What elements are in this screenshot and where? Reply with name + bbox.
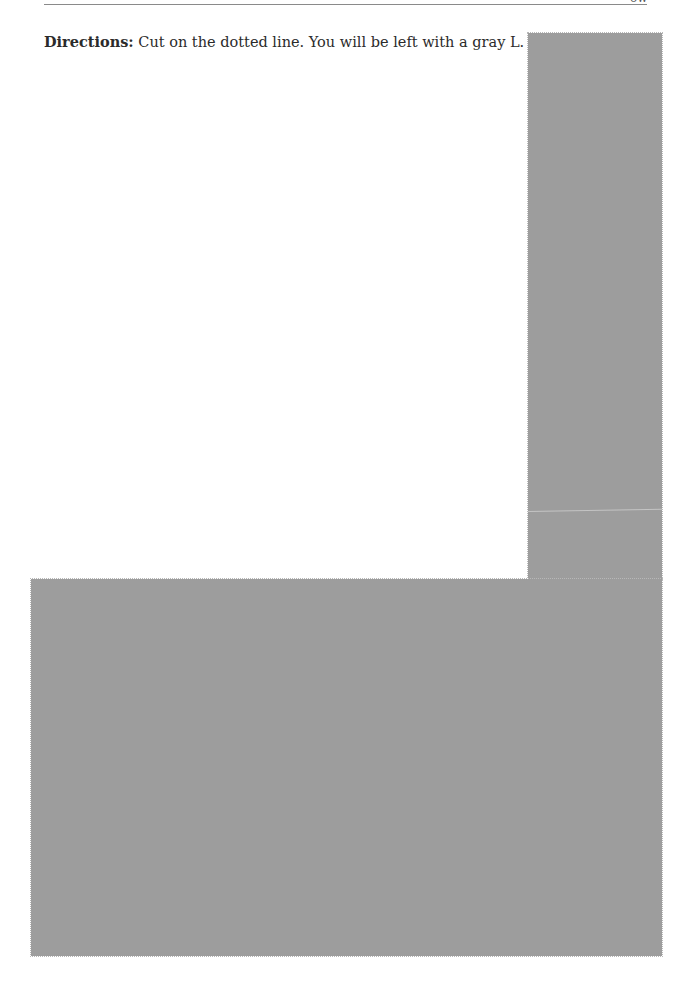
directions-body: Cut on the dotted line. You will be left… xyxy=(134,34,524,50)
header-clipped-text: ow xyxy=(630,0,648,5)
directions-label: Directions: xyxy=(44,33,134,50)
header-rule xyxy=(44,4,647,5)
gray-l-horizontal-bar xyxy=(31,579,662,956)
directions-text: Directions: Cut on the dotted line. You … xyxy=(44,33,524,50)
gray-l-vertical-bar xyxy=(528,33,662,579)
